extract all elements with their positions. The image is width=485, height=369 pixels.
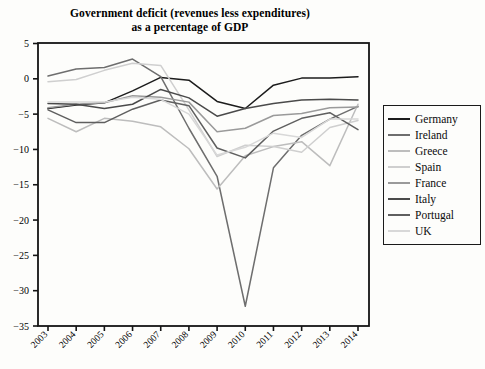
x-tick-label: 2006 [113,329,134,350]
legend-item-label: Italy [415,193,436,205]
legend-item-uk[interactable]: UK [387,223,476,239]
legend-item-ireland[interactable]: Ireland [387,127,476,143]
series-line-ireland [48,59,358,306]
legend-item-label: Ireland [415,129,448,141]
legend-item-greece[interactable]: Greece [387,143,476,159]
legend-line-swatch-icon [388,182,410,184]
legend-item-italy[interactable]: Italy [387,191,476,207]
x-tick-label: 2007 [142,329,163,350]
y-tick-label: −5 [18,109,29,120]
y-tick-label: −25 [13,250,29,261]
x-tick-label: 2014 [339,329,360,350]
legend-item-germany[interactable]: Germany [387,111,476,127]
x-tick-label: 2008 [170,329,191,350]
x-tick-label: 2003 [29,329,50,350]
y-tick-label: −15 [13,179,29,190]
x-tick-label: 2010 [226,329,247,350]
legend-line-swatch-icon [388,198,410,200]
chart-plot-area: 50−5−10−15−20−25−30−35 20032004200520062… [0,0,380,369]
y-tick-label: −10 [13,144,29,155]
legend-item-label: Germany [415,113,458,125]
y-tick-label: −30 [13,285,29,296]
legend-line-swatch-icon [388,134,410,136]
legend-item-label: UK [415,225,432,237]
x-tick-label: 2004 [57,329,78,350]
line-chart-svg: 50−5−10−15−20−25−30−35 20032004200520062… [0,0,380,369]
legend-item-portugal[interactable]: Portugal [387,207,476,223]
chart-legend: GermanyIrelandGreeceSpainFranceItalyPort… [383,105,481,245]
plot-frame [38,43,369,326]
legend-line-swatch-icon [388,150,410,152]
x-tick-label: 2012 [283,329,304,350]
legend-line-swatch-icon [388,214,410,216]
y-axis-ticks: 50−5−10−15−20−25−30−35 [13,38,38,332]
legend-item-label: Greece [415,145,448,157]
legend-line-swatch-icon [388,166,410,168]
x-tick-label: 2009 [198,329,219,350]
legend-item-label: Portugal [415,209,454,221]
x-tick-label: 2011 [255,329,275,349]
y-tick-label: 0 [24,73,29,84]
x-axis-ticks: 2003200420052006200720082009201020112012… [29,326,360,350]
x-tick-label: 2013 [311,329,332,350]
y-tick-label: 5 [24,38,29,49]
y-tick-label: −20 [13,215,29,226]
y-tick-label: −35 [13,321,29,332]
legend-item-france[interactable]: France [387,175,476,191]
legend-item-label: Spain [415,161,441,173]
x-tick-label: 2005 [85,329,106,350]
legend-line-swatch-icon [388,230,410,232]
legend-item-label: France [415,177,446,189]
legend-item-spain[interactable]: Spain [387,159,476,175]
data-series-group [48,59,358,306]
legend-line-swatch-icon [388,118,410,120]
series-line-spain [48,63,358,156]
